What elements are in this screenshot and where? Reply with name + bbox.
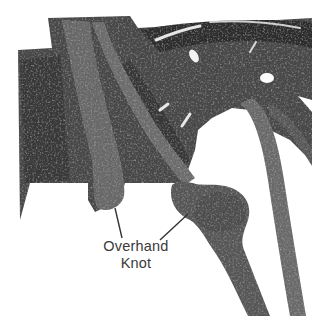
callout-leader-lines <box>115 208 188 240</box>
fabric-body <box>18 16 312 220</box>
callout-label-line1: Overhand <box>86 238 186 255</box>
knot-illustration: Overhand Knot <box>0 0 335 327</box>
knitted-fabric-image <box>0 0 335 327</box>
callout-label: Overhand Knot <box>86 238 186 272</box>
callout-label-line2: Knot <box>86 255 186 272</box>
